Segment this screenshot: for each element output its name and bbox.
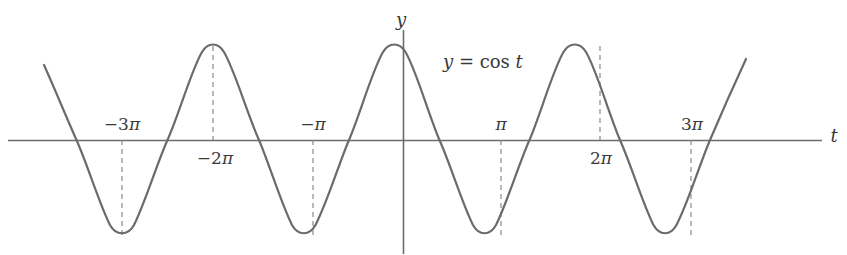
tick-label-negpi: −π xyxy=(300,116,325,133)
t-axis-label: t xyxy=(830,127,837,145)
tick-number: 3 xyxy=(118,114,129,134)
tick-number: 3 xyxy=(681,114,692,134)
tick-label-neg2pi: −2π xyxy=(197,150,233,167)
tick-pi: π xyxy=(692,114,703,134)
tick-pi: π xyxy=(495,114,506,134)
equation-operator: = xyxy=(453,51,480,72)
equation-function: cos xyxy=(480,51,510,72)
tick-label-2pi: 2π xyxy=(590,150,612,167)
tick-pi: π xyxy=(129,114,140,134)
tick-pi: π xyxy=(601,148,612,168)
tick-pi: π xyxy=(315,114,326,134)
curve-equation-label: y = cos t xyxy=(443,53,523,71)
cosine-graph-figure: y t y = cos t −3π −2π −π π 2π 3π xyxy=(0,0,847,255)
equation-lhs: y xyxy=(443,51,453,72)
tick-minus: − xyxy=(104,114,118,134)
equation-argument: t xyxy=(516,51,523,72)
tick-label-pi: π xyxy=(495,116,506,133)
tick-minus: − xyxy=(300,114,314,134)
tick-pi: π xyxy=(222,148,233,168)
cosine-curve xyxy=(44,45,746,234)
y-axis-label: y xyxy=(396,11,406,29)
tick-number: 2 xyxy=(590,148,601,168)
tick-minus: − xyxy=(197,148,211,168)
tick-label-3pi: 3π xyxy=(681,116,703,133)
tick-guide-lines xyxy=(122,46,691,239)
tick-number: 2 xyxy=(211,148,222,168)
tick-label-neg3pi: −3π xyxy=(104,116,140,133)
